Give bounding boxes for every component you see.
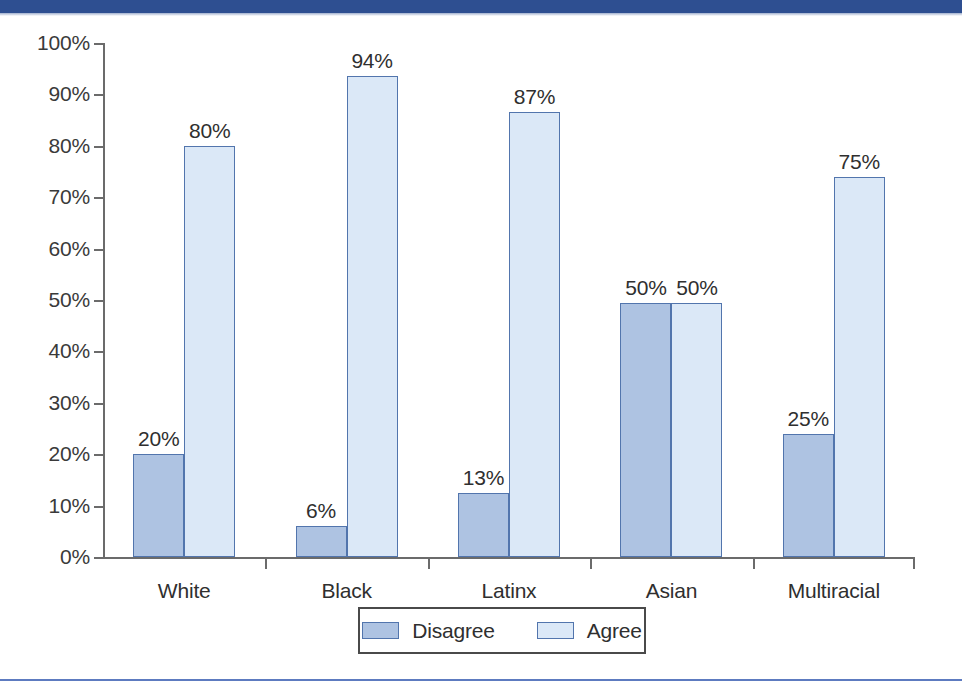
- y-axis-tick-label: 10%: [49, 494, 90, 518]
- x-axis-category-label-asian: Asian: [646, 579, 698, 603]
- y-axis-tick: [94, 454, 103, 456]
- bar-black-agree: 94%: [347, 76, 398, 557]
- bar-asian-agree: 50%: [671, 303, 722, 557]
- x-axis-category-label-latinx: Latinx: [482, 579, 537, 603]
- y-axis-tick-label: 0%: [60, 545, 90, 569]
- y-axis-tick-label: 30%: [49, 391, 90, 415]
- plot-area: 0%10%20%30%40%50%60%70%80%90%100% 20%80%…: [103, 43, 915, 557]
- bar-asian-disagree: 50%: [620, 303, 671, 557]
- y-axis-tick: [94, 249, 103, 251]
- bar-value-label: 25%: [788, 407, 829, 431]
- x-axis-category-label-white: White: [158, 579, 211, 603]
- bar-white-agree: 80%: [184, 146, 235, 557]
- bar-multiracial-disagree: 25%: [783, 434, 834, 557]
- bottom-rule: [0, 679, 962, 681]
- x-axis-category-label-multiracial: Multiracial: [788, 579, 880, 603]
- y-axis-line: [103, 43, 105, 558]
- y-axis-tick: [94, 351, 103, 353]
- x-axis-tick: [428, 557, 430, 569]
- bar-value-label: 75%: [839, 150, 880, 174]
- x-axis-tick: [590, 557, 592, 569]
- legend-entry-agree[interactable]: Agree: [537, 619, 642, 643]
- legend-swatch-agree-icon: [537, 622, 574, 639]
- y-axis-tick-label: 60%: [49, 237, 90, 261]
- y-axis-tick: [94, 146, 103, 148]
- y-axis-tick-label: 40%: [49, 339, 90, 363]
- bar-white-disagree: 20%: [133, 454, 184, 557]
- top-banner: [0, 0, 962, 13]
- x-axis-category-label-black: Black: [321, 579, 371, 603]
- legend-label-disagree: Disagree: [412, 619, 494, 643]
- y-axis-tick: [94, 506, 103, 508]
- chart-legend: DisagreeAgree: [358, 607, 646, 654]
- y-axis-tick-label: 90%: [49, 82, 90, 106]
- y-axis-tick-label: 20%: [49, 442, 90, 466]
- legend-label-agree: Agree: [587, 619, 642, 643]
- y-axis-tick-label: 100%: [37, 31, 90, 55]
- y-axis-tick: [94, 197, 103, 199]
- bar-multiracial-agree: 75%: [834, 177, 885, 557]
- bar-value-label: 50%: [676, 276, 717, 300]
- x-axis-line: [103, 557, 915, 559]
- bar-chart-figure: 0%10%20%30%40%50%60%70%80%90%100% 20%80%…: [0, 16, 962, 676]
- bar-value-label: 87%: [514, 85, 555, 109]
- legend-swatch-disagree-icon: [362, 622, 399, 639]
- legend-entry-disagree[interactable]: Disagree: [362, 619, 494, 643]
- y-axis-tick: [94, 557, 103, 559]
- bar-latinx-agree: 87%: [509, 112, 560, 557]
- y-axis-tick-label: 50%: [49, 288, 90, 312]
- y-axis-tick-label: 80%: [49, 134, 90, 158]
- bar-latinx-disagree: 13%: [458, 493, 509, 557]
- y-axis-tick: [94, 300, 103, 302]
- bar-value-label: 50%: [625, 276, 666, 300]
- bar-value-label: 94%: [351, 49, 392, 73]
- bar-value-label: 20%: [138, 427, 179, 451]
- y-axis-tick: [94, 403, 103, 405]
- x-axis-tick: [265, 557, 267, 569]
- y-axis-tick-label: 70%: [49, 185, 90, 209]
- bar-value-label: 6%: [306, 499, 336, 523]
- y-axis-tick: [94, 94, 103, 96]
- y-axis-tick: [94, 43, 103, 45]
- bar-value-label: 80%: [189, 119, 230, 143]
- bar-value-label: 13%: [463, 466, 504, 490]
- bar-black-disagree: 6%: [296, 526, 347, 557]
- x-axis-tick: [753, 557, 755, 569]
- x-axis-end-tick: [913, 557, 915, 569]
